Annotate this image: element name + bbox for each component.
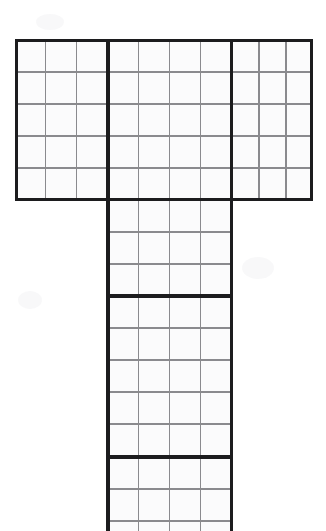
paper-top-band [15, 40, 313, 200]
figure-canvas [0, 0, 326, 531]
t-shape-grid-figure [0, 0, 326, 531]
smudge-mark-right [242, 257, 274, 279]
smudge-mark-left [18, 291, 42, 309]
smudge-mark-top [36, 14, 64, 30]
